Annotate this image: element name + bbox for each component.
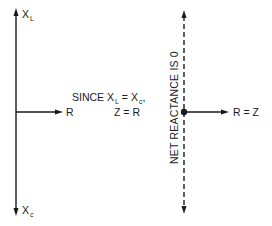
z-equals-r: Z = R: [114, 107, 140, 118]
r-label-left: R: [66, 107, 74, 118]
xl-label-sub: L: [30, 15, 34, 22]
since-mid: = X: [119, 91, 138, 103]
since-prefix: SINCE X: [72, 91, 114, 103]
xl-label: XL: [22, 9, 34, 20]
since-sub-l: L: [115, 98, 119, 105]
net-reactance-label: NET REACTANCE IS 0: [168, 64, 180, 164]
arrow-down-icon: [14, 208, 19, 216]
xl-label-main: X: [22, 8, 29, 20]
arrow-down-icon: [182, 206, 187, 214]
since-statement: SINCE XL = Xc,: [72, 92, 145, 103]
xc-label-main: X: [22, 204, 29, 216]
arrow-up-icon: [14, 8, 19, 16]
since-suffix: ,: [142, 91, 145, 103]
r-equals-z-label: R = Z: [233, 107, 259, 118]
xc-label: Xc: [22, 205, 34, 216]
since-sub-c: c: [139, 98, 143, 105]
xc-label-sub: c: [30, 211, 34, 218]
arrow-right-icon: [221, 110, 229, 115]
arrow-right-icon: [55, 110, 63, 115]
arrow-up-icon: [182, 10, 187, 18]
